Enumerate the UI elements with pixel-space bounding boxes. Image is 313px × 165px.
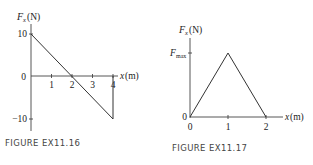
y-tick-label-fmax-main: F xyxy=(169,48,176,58)
y-tick-label: −10 xyxy=(12,114,27,124)
x-axis-label-unit: (m) xyxy=(290,112,304,123)
y-axis-label-sub: x xyxy=(22,16,26,23)
y-tick-label: 10 xyxy=(18,29,28,39)
x-tick-label: 2 xyxy=(264,122,269,132)
x-tick-label: 2 xyxy=(70,80,75,90)
y-axis-label-sub: x xyxy=(184,29,188,36)
figure-caption: FIGURE EX11.16 xyxy=(5,138,80,148)
force-curve xyxy=(190,53,266,117)
figures-canvas: F x (N) 10 0 −10 1 2 3 4 x (m) FIGURE EX… xyxy=(0,0,313,165)
figure-ex11-17: F x (N) F max 0 0 1 2 x (m) FIGURE EX11.… xyxy=(169,24,304,153)
figure-caption: FIGURE EX11.17 xyxy=(172,143,247,153)
y-tick-label: 0 xyxy=(21,72,26,82)
x-tick-label: 0 xyxy=(188,122,193,132)
x-tick-label: 3 xyxy=(90,80,95,90)
y-tick-label-fmax-sub: max xyxy=(176,53,186,59)
y-axis-label-unit: (N) xyxy=(189,25,202,36)
y-axis-label-unit: (N) xyxy=(27,12,40,23)
x-tick-label: 1 xyxy=(226,122,231,132)
figure-ex11-16: F x (N) 10 0 −10 1 2 3 4 x (m) FIGURE EX… xyxy=(5,11,139,148)
x-tick-label: 1 xyxy=(49,80,54,90)
y-tick-label: 0 xyxy=(182,112,187,122)
x-axis-label-unit: (m) xyxy=(125,71,139,82)
force-curve xyxy=(31,34,113,119)
